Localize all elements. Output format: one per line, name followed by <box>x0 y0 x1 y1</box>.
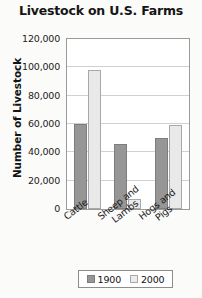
y-axis-tick-labels: 020,00040,00060,00080,000100,000120,000 <box>0 38 63 210</box>
x-axis-tick-labels: CattleSheep andLambsHogs andPigs <box>0 210 202 268</box>
bar-group <box>108 39 149 209</box>
y-axis-tick-label: 40,000 <box>28 146 60 157</box>
bar <box>74 124 87 209</box>
y-axis-tick-label: 60,000 <box>28 118 60 129</box>
bars-layer <box>67 39 189 209</box>
y-axis-tick-label: 80,000 <box>28 89 60 100</box>
y-axis-tick-label: 20,000 <box>28 174 60 185</box>
y-axis-tick-label: 100,000 <box>22 61 60 72</box>
legend-label: 2000 <box>141 274 164 285</box>
bar-group <box>67 39 108 209</box>
legend-swatch <box>87 275 95 283</box>
legend-swatch <box>130 275 138 283</box>
y-axis-tick-label: 120,000 <box>22 33 60 44</box>
bar-group <box>148 39 189 209</box>
bar <box>88 70 101 209</box>
legend-entry: 1900 <box>87 274 121 285</box>
chart-title: Livestock on U.S. Farms <box>0 3 202 18</box>
chart-legend: 19002000 <box>78 270 173 288</box>
bar-chart-figure: Livestock on U.S. Farms Number of Livest… <box>0 0 202 298</box>
legend-label: 1900 <box>98 274 121 285</box>
legend-entry: 2000 <box>130 274 164 285</box>
